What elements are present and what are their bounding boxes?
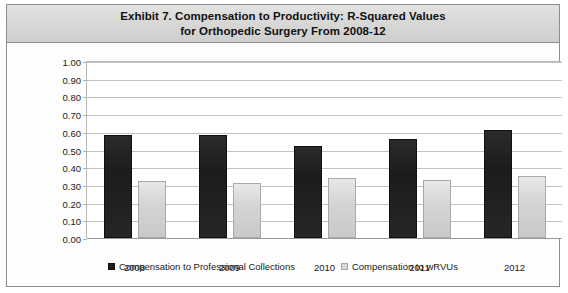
y-axis-tick-label: 0.50	[41, 145, 81, 156]
bar-2011-series-2	[423, 180, 451, 238]
legend-swatch-icon	[108, 263, 115, 270]
legend-label: Compensation to wRVUs	[352, 261, 458, 272]
chart-body: 0.000.100.200.300.400.500.600.700.800.90…	[7, 43, 559, 286]
y-axis-tick-label: 0.10	[41, 216, 81, 227]
bar-2010-series-1	[294, 146, 322, 238]
bar-group-2012	[467, 61, 562, 238]
chart-figure: Exhibit 7. Compensation to Productivity:…	[6, 4, 560, 287]
bar-2008-series-2	[138, 181, 166, 238]
chart-title-line-1: Exhibit 7. Compensation to Productivity:…	[120, 9, 446, 24]
bar-group-2010	[277, 61, 372, 238]
chart-title-line-2: for Orthopedic Surgery From 2008-12	[180, 24, 386, 39]
y-axis-tick-label: 0.20	[41, 198, 81, 209]
y-axis-tick-label: 0.00	[41, 234, 81, 245]
y-axis-tick-label: 1.00	[41, 57, 81, 68]
y-axis-tick-label: 0.80	[41, 92, 81, 103]
legend-item-1[interactable]: Compensation to Professional Collections	[108, 261, 295, 272]
y-axis-tick	[83, 239, 87, 240]
bar-2012-series-2	[518, 176, 546, 238]
y-axis-tick-label: 0.90	[41, 74, 81, 85]
y-axis-tick-label: 0.70	[41, 110, 81, 121]
bar-group-2011	[372, 61, 467, 238]
legend-swatch-icon	[341, 263, 348, 270]
bar-2009-series-2	[233, 183, 261, 238]
bar-group-2008	[87, 61, 182, 238]
chart-legend: Compensation to Professional Collections…	[7, 261, 559, 272]
y-axis-tick-label: 0.40	[41, 163, 81, 174]
chart-title-banner: Exhibit 7. Compensation to Productivity:…	[7, 5, 559, 43]
bar-2012-series-1	[484, 130, 512, 238]
legend-item-2[interactable]: Compensation to wRVUs	[341, 261, 458, 272]
bar-2008-series-1	[104, 135, 132, 238]
y-axis-tick-label: 0.60	[41, 127, 81, 138]
bar-2011-series-1	[389, 139, 417, 238]
x-axis-line	[87, 238, 562, 239]
bar-2010-series-2	[328, 178, 356, 238]
plot-area: 0.000.100.200.300.400.500.600.700.800.90…	[86, 61, 561, 238]
bar-group-2009	[182, 61, 277, 238]
bar-2009-series-1	[199, 135, 227, 238]
legend-label: Compensation to Professional Collections	[119, 261, 295, 272]
y-axis-tick-label: 0.30	[41, 180, 81, 191]
